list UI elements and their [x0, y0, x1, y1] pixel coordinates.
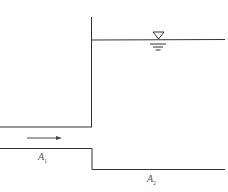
label-a2-sub: 2 — [153, 180, 156, 186]
label-a1: A1 — [38, 152, 47, 164]
pipe-lower-wall-step — [0, 149, 225, 170]
diagram-canvas — [0, 0, 228, 192]
free-surface-triangle-icon — [150, 32, 166, 50]
water-surface-line — [92, 40, 226, 41]
flow-direction-arrow-icon — [27, 136, 62, 140]
label-a2: A2 — [147, 174, 156, 186]
label-a1-sub: 1 — [44, 158, 47, 164]
